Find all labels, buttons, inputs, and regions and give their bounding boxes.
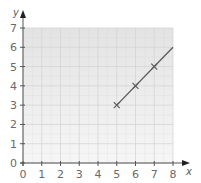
x-tick-label: 0 bbox=[20, 168, 27, 181]
x-tick-label: 3 bbox=[76, 168, 83, 181]
y-tick-label: 1 bbox=[10, 138, 17, 151]
x-tick-label: 4 bbox=[95, 168, 102, 181]
y-axis-arrow-icon bbox=[20, 10, 26, 18]
y-tick-label: 5 bbox=[10, 61, 17, 74]
y-tick-label: 4 bbox=[10, 80, 17, 93]
x-tick-label: 8 bbox=[170, 168, 177, 181]
x-tick-label: 5 bbox=[113, 168, 120, 181]
x-tick-label: 7 bbox=[151, 168, 158, 181]
y-tick-label: 6 bbox=[10, 41, 17, 54]
y-tick-label: 0 bbox=[10, 157, 17, 170]
y-tick-label: 3 bbox=[10, 99, 17, 112]
x-tick-label: 6 bbox=[132, 168, 139, 181]
y-tick-label: 7 bbox=[10, 22, 17, 35]
x-tick-label: 1 bbox=[38, 168, 45, 181]
x-tick-label: 2 bbox=[57, 168, 64, 181]
y-tick-label: 2 bbox=[10, 118, 17, 131]
x-axis-label: x bbox=[185, 166, 192, 177]
line-chart: 01234567801234567 x y bbox=[0, 0, 201, 183]
y-axis-label: y bbox=[12, 7, 20, 18]
